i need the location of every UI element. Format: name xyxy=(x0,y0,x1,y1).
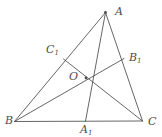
point-label-base: O xyxy=(69,70,78,83)
point-label-base: A xyxy=(115,5,123,18)
point-label-c1: C1 xyxy=(46,44,59,55)
point-label-subscript: 1 xyxy=(88,129,92,137)
side-BC xyxy=(15,121,143,122)
geometry-figure: AC1B1OBA1C xyxy=(0,0,162,137)
point-label-a: A xyxy=(115,6,123,17)
point-label-base: C xyxy=(148,115,156,128)
side-AB xyxy=(15,13,106,122)
side-CA xyxy=(106,13,143,122)
point-label-a1: A1 xyxy=(80,124,92,135)
point-label-base: B xyxy=(129,51,137,64)
point-label-base: A xyxy=(80,123,88,136)
segments-group xyxy=(15,13,143,122)
geometry-canvas xyxy=(0,0,162,137)
point-label-subscript: 1 xyxy=(54,49,58,57)
cevian-B-B1 xyxy=(15,59,125,122)
point-dot-o xyxy=(85,77,88,80)
point-label-b: B xyxy=(5,115,13,126)
cevian-C-C1 xyxy=(64,59,143,121)
point-label-c: C xyxy=(148,116,156,127)
point-label-subscript: 1 xyxy=(137,57,141,65)
point-dot-a xyxy=(104,11,107,14)
point-label-o: O xyxy=(69,71,78,82)
point-label-base: B xyxy=(5,114,13,127)
point-label-b1: B1 xyxy=(129,52,142,63)
cevian-A-A1 xyxy=(86,13,106,122)
